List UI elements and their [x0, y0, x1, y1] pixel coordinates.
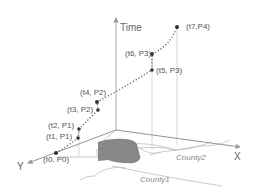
trajectory-points — [54, 25, 179, 155]
point-label-t6: (t6, P3) — [125, 50, 151, 58]
y-axis-label: Y — [17, 162, 24, 172]
trajectory-diagram: Time X Y (t0, P0) (t1, P1) (t2, P1) (t3,… — [0, 0, 260, 192]
trajectory-path — [56, 27, 177, 153]
point-label-t1: (t1, P1) — [46, 133, 72, 141]
county2-label: County2 — [176, 154, 206, 162]
point-label-t5: (t5, P3) — [156, 67, 182, 75]
county-region — [98, 139, 140, 163]
point-label-t2: (t2, P1) — [48, 122, 74, 130]
county1-label: County1 — [140, 176, 170, 184]
time-axis-label: Time — [120, 23, 142, 33]
point-label-t0: (t0, P0) — [43, 156, 69, 164]
point-label-t7: (t7,P4) — [186, 23, 210, 31]
point-label-t4: (t4, P2) — [80, 89, 106, 97]
x-axis-label: X — [234, 152, 241, 162]
point-label-t3: (t3, P2) — [67, 106, 93, 114]
